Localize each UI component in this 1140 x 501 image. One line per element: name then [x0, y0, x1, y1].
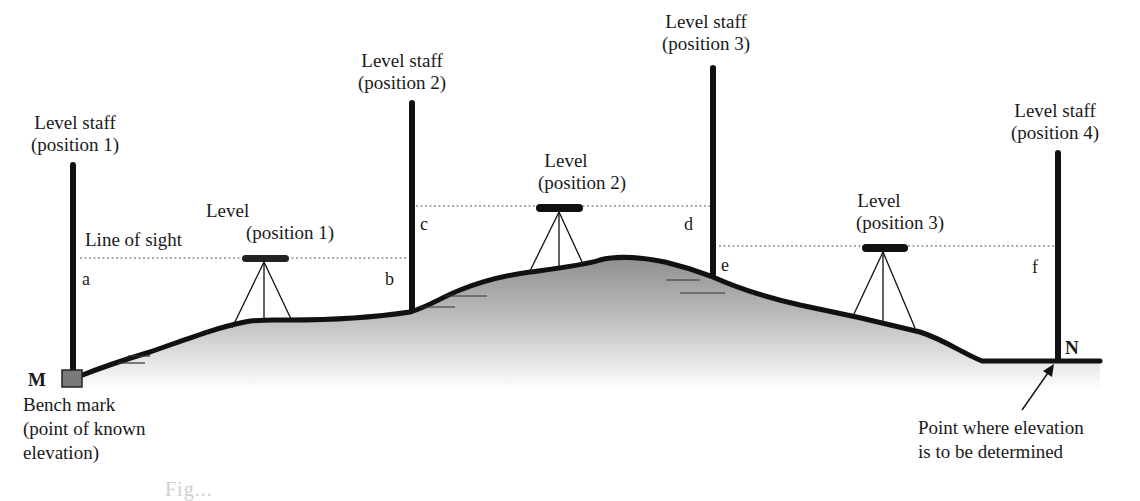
line-of-sight-label: Line of sight — [85, 229, 182, 251]
reading-a: a — [82, 268, 90, 290]
point-n-line1: Point where elevation — [918, 416, 1084, 440]
level-1-label: Level (position 1) — [246, 200, 334, 244]
reading-f: f — [1032, 256, 1038, 278]
reading-e: e — [721, 254, 729, 276]
staff-1-label-line1: Level staff — [31, 112, 119, 134]
staff-1-label: Level staff (position 1) — [31, 112, 119, 156]
staff-3-label-line1: Level staff — [662, 11, 750, 33]
staff-4-label-line2: (position 4) — [1011, 122, 1099, 144]
reading-b: b — [385, 268, 394, 290]
bench-mark-line2: (point of known — [23, 417, 145, 441]
bench-mark-line3: elevation) — [23, 441, 145, 465]
point-n-line2: is to be determined — [918, 440, 1084, 464]
staff-1-label-line2: (position 1) — [31, 134, 119, 156]
staff-2-label-line1: Level staff — [358, 50, 446, 72]
level-2-label-line2: (position 2) — [538, 172, 626, 194]
level-1-label-line1: Level — [206, 200, 334, 222]
level-1-label-line2: (position 1) — [246, 222, 334, 244]
reading-c: c — [420, 213, 428, 235]
reading-d: d — [684, 213, 693, 235]
level-3-label-line2: (position 3) — [856, 212, 944, 234]
bench-mark-line1: Bench mark — [23, 393, 145, 417]
staff-4-label-line1: Level staff — [1011, 100, 1099, 122]
level-instrument-1 — [232, 255, 291, 328]
staff-2-label-line2: (position 2) — [358, 72, 446, 94]
staff-4-label: Level staff (position 4) — [1011, 100, 1099, 144]
staff-2-label: Level staff (position 2) — [358, 50, 446, 94]
level-instrument-3 — [853, 244, 915, 328]
level-instrument-2 — [529, 204, 583, 273]
staff-3-label-line2: (position 3) — [662, 33, 750, 55]
point-m-label: M — [28, 369, 46, 391]
point-n-label: N — [1065, 337, 1079, 359]
level-2-label-line1: Level — [506, 150, 626, 172]
bench-mark-icon — [62, 370, 82, 387]
level-3-label: Level (position 3) — [856, 190, 944, 234]
level-3-label-line1: Level — [814, 190, 944, 212]
level-2-label: Level (position 2) — [538, 150, 626, 194]
figure-caption-partial: Fig... — [165, 478, 213, 501]
staff-3-label: Level staff (position 3) — [662, 11, 750, 55]
bench-mark-description: Bench mark (point of known elevation) — [23, 393, 145, 465]
point-n-description: Point where elevation is to be determine… — [918, 416, 1084, 464]
